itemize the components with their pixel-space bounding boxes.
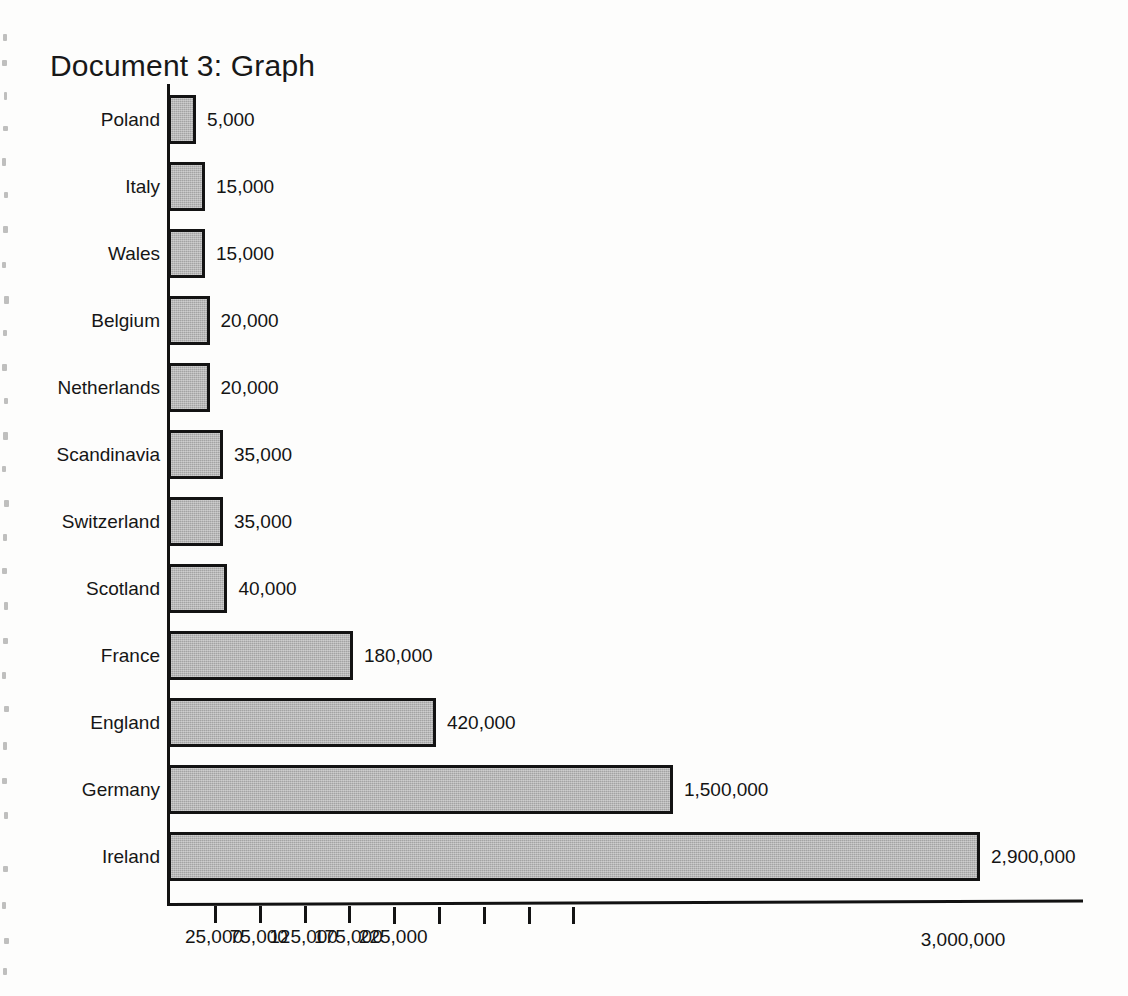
bar-value-label: 20,000	[221, 310, 279, 332]
category-label: France	[101, 645, 160, 667]
x-axis-tick	[438, 907, 441, 924]
bar	[168, 497, 223, 546]
bar-row: Belgium20,000	[0, 296, 1128, 345]
x-axis-tick	[483, 907, 486, 924]
bar-chart: Poland5,000Italy15,000Wales15,000Belgium…	[0, 0, 1128, 996]
bar-row: Germany1,500,000	[0, 765, 1128, 814]
bar-value-label: 420,000	[447, 712, 516, 734]
category-label: Ireland	[102, 846, 160, 868]
bar	[168, 162, 205, 211]
bar	[168, 363, 210, 412]
bar-value-label: 1,500,000	[684, 779, 769, 801]
category-label: Belgium	[91, 310, 160, 332]
bar	[168, 765, 673, 814]
category-label: Germany	[82, 779, 160, 801]
category-label: Switzerland	[62, 511, 160, 533]
bar-row: Poland5,000	[0, 95, 1128, 144]
x-axis-tick	[348, 906, 351, 923]
x-axis-tick	[528, 907, 531, 924]
bar-value-label: 5,000	[207, 109, 255, 131]
bar-value-label: 15,000	[216, 176, 274, 198]
bar	[168, 832, 980, 881]
bar-value-label: 2,900,000	[991, 846, 1076, 868]
bar-row: Scandinavia35,000	[0, 430, 1128, 479]
bar-value-label: 35,000	[234, 511, 292, 533]
category-label: Scandinavia	[56, 444, 160, 466]
bar-value-label: 40,000	[238, 578, 296, 600]
category-label: Poland	[101, 109, 160, 131]
x-axis-tick	[393, 907, 396, 924]
bar	[168, 296, 210, 345]
bar-value-label: 180,000	[364, 645, 433, 667]
category-label: Scotland	[86, 578, 160, 600]
bar	[168, 698, 436, 747]
category-label: Italy	[125, 176, 160, 198]
bar-row: Wales15,000	[0, 229, 1128, 278]
bar-value-label: 20,000	[221, 377, 279, 399]
bar	[168, 229, 205, 278]
bar-row: England420,000	[0, 698, 1128, 747]
x-axis-tick	[214, 906, 217, 923]
bar-value-label: 15,000	[216, 243, 274, 265]
x-axis-tick	[572, 907, 575, 924]
bar-row: Switzerland35,000	[0, 497, 1128, 546]
bar-row: Italy15,000	[0, 162, 1128, 211]
x-axis-tick	[304, 906, 307, 923]
x-axis-tick-label: 3,000,000	[921, 929, 1006, 951]
bar	[168, 564, 227, 613]
bar	[168, 95, 196, 144]
category-label: Wales	[108, 243, 160, 265]
bar	[168, 631, 353, 680]
bar-row: France180,000	[0, 631, 1128, 680]
bar-row: Ireland2,900,000	[0, 832, 1128, 881]
category-label: Netherlands	[58, 377, 160, 399]
x-axis-line	[167, 899, 1083, 906]
bar	[168, 430, 223, 479]
bar-row: Scotland40,000	[0, 564, 1128, 613]
x-axis-tick	[259, 906, 262, 923]
x-axis-tick-label: 225,000	[359, 926, 428, 948]
category-label: England	[90, 712, 160, 734]
bar-value-label: 35,000	[234, 444, 292, 466]
bar-row: Netherlands20,000	[0, 363, 1128, 412]
